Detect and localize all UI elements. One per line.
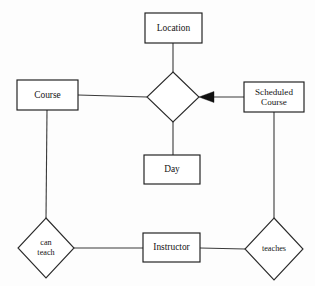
relationship-can-teach[interactable]: can teach bbox=[18, 218, 74, 278]
connector-course-to-schedule bbox=[78, 95, 147, 97]
relationship-arrowhead-icon bbox=[199, 92, 214, 103]
relationship-teaches-label: teaches bbox=[262, 244, 286, 253]
entity-instructor[interactable]: Instructor bbox=[143, 233, 200, 262]
entity-scheduled-course[interactable]: Scheduled Course bbox=[244, 82, 304, 112]
entity-course[interactable]: Course bbox=[17, 80, 78, 110]
entity-location-label: Location bbox=[157, 23, 191, 33]
entity-location[interactable]: Location bbox=[145, 13, 202, 43]
entity-course-label: Course bbox=[34, 90, 61, 100]
relationship-can-teach-label-line2: teach bbox=[37, 248, 54, 257]
entity-scheduled-course-label-line1: Scheduled bbox=[255, 87, 293, 97]
connector-instructor-to-teaches bbox=[200, 248, 245, 249]
entity-day-label: Day bbox=[164, 164, 180, 174]
er-diagram-svg: can teach teaches Location Course Schedu… bbox=[0, 0, 315, 286]
entity-instructor-label: Instructor bbox=[153, 242, 190, 252]
connector-course-to-can-teach bbox=[46, 110, 47, 218]
entity-scheduled-course-label-line2: Course bbox=[261, 97, 287, 107]
relationship-can-teach-label-line1: can bbox=[40, 238, 51, 247]
relationship-schedule-shape[interactable] bbox=[147, 72, 199, 122]
entity-day[interactable]: Day bbox=[144, 155, 200, 184]
relationship-schedule[interactable] bbox=[147, 72, 199, 122]
er-diagram-canvas: can teach teaches Location Course Schedu… bbox=[0, 0, 315, 286]
relationship-teaches[interactable]: teaches bbox=[245, 218, 303, 280]
connector-group bbox=[46, 43, 274, 249]
